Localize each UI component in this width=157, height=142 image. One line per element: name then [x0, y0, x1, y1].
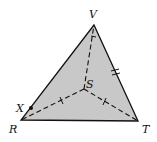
label-t: T: [142, 123, 151, 136]
triangle-rvt: [21, 25, 138, 121]
label-x: X: [15, 102, 25, 115]
point-x: [29, 106, 33, 110]
triangle-diagram: V X R T S: [0, 0, 157, 142]
label-s: S: [86, 78, 94, 91]
label-r: R: [8, 123, 17, 136]
label-v: V: [89, 8, 98, 21]
